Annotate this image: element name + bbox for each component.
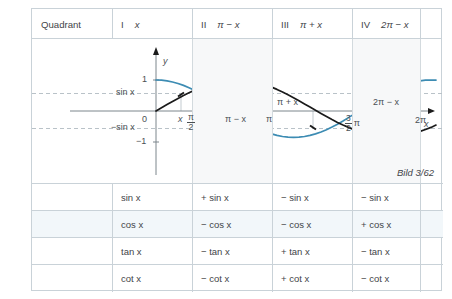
row-cos-divider-4 (352, 211, 353, 238)
row-sin-quadrant-4: − sin x (361, 184, 389, 211)
quadrant-3-roman: III (281, 19, 289, 30)
header-quadrant-3: III π + x (281, 9, 322, 39)
row-tan-quadrant-2: − tan x (201, 238, 230, 265)
row-sin-divider-5 (420, 184, 421, 211)
row-cot-quadrant-3: + cot x (281, 265, 309, 292)
grid-vline-pi (272, 39, 273, 183)
row-tan-divider-1 (112, 238, 113, 265)
table-row-cos: cos x − cos x − cos x + cos x (32, 211, 443, 238)
quadrant-2-expr: π − x (217, 19, 239, 30)
x-label-pi-half: π 2 (187, 113, 195, 132)
row-cos-divider-3 (272, 211, 273, 238)
row-tan-divider-4 (352, 238, 353, 265)
header-quadrant-4: IV 2π − x (361, 9, 409, 39)
row-cot-function: cot x (121, 265, 141, 292)
y-label-zero: 0 (142, 114, 147, 124)
three-pi-half-pi: π (354, 118, 360, 128)
figure-caption: Bild 3/62 (397, 167, 434, 178)
three-halves-denominator: 2 (345, 124, 352, 133)
row-cot-divider-4 (352, 265, 353, 292)
row-sin-divider-3 (272, 184, 273, 211)
three-pi-half-group: 3 2 π (345, 114, 360, 133)
y-label-sinx: sin x (116, 87, 135, 97)
row-tan-divider-3 (272, 238, 273, 265)
header-divider-2 (192, 9, 193, 39)
row-tan-quadrant-4: − tan x (361, 238, 390, 265)
x-label-x: x (178, 114, 183, 124)
table-header-row: Quadrant I x II π − x III π + x IV 2π − … (32, 9, 441, 39)
row-cot-divider-5 (420, 265, 421, 292)
row-cos-divider-2 (192, 211, 193, 238)
header-quadrant-2: II π − x (201, 9, 240, 39)
x-label-pi: π (266, 114, 272, 124)
x-label-pi-minus-x: π − x (225, 114, 246, 124)
row-cos-function: cos x (121, 211, 143, 238)
quadrant-1-roman: I (121, 19, 124, 30)
grid-vline-three-pi-half (352, 39, 353, 183)
row-cos-divider-1 (112, 211, 113, 238)
quadrant-1-expr: x (135, 19, 140, 30)
row-sin-divider-2 (192, 184, 193, 211)
pi-half-fraction: π 2 (187, 113, 195, 132)
x-axis-arrow (428, 108, 435, 114)
grid-vline-two-pi (420, 39, 421, 183)
row-sin-quadrant-3: − sin x (281, 184, 309, 211)
row-cot-quadrant-2: − cot x (201, 265, 229, 292)
quadrant-2-roman: II (201, 19, 206, 30)
quadrant-3-expr: π + x (300, 19, 322, 30)
y-label-neg-sinx: −sin x (111, 122, 135, 132)
y-label-one: 1 (142, 74, 147, 84)
row-cot-quadrant-4: − cot x (361, 265, 389, 292)
y-axis-name: y (163, 56, 168, 66)
row-tan-function: tan x (121, 238, 142, 265)
row-cot-divider-2 (192, 265, 193, 292)
header-quadrant-text: Quadrant (41, 19, 81, 30)
row-sin-function: sin x (121, 184, 141, 211)
quadrant-band-2 (192, 39, 272, 183)
pi-half-denominator: 2 (187, 123, 195, 132)
row-sin-quadrant-2: + sin x (201, 184, 229, 211)
header-quadrant-1: I x (121, 9, 139, 39)
row-cos-quadrant-4: + cos x (361, 211, 391, 238)
row-cos-quadrant-2: − cos x (201, 211, 231, 238)
trig-graph-figure: y x 1 sin x 0 −sin x −1 x π 2 π − x π π … (32, 39, 443, 184)
row-cos-quadrant-3: − cos x (281, 211, 311, 238)
table-row-cot: cot x − cot x + cot x − cot x (32, 265, 443, 292)
header-divider-4 (352, 9, 353, 39)
row-sin-divider-4 (352, 184, 353, 211)
x-label-three-pi-half: 3 2 π (345, 113, 360, 133)
row-cot-divider-3 (272, 265, 273, 292)
header-divider-5 (420, 9, 421, 39)
y-label-minus-one: −1 (136, 136, 146, 146)
header-divider-1 (112, 9, 113, 39)
y-axis-arrow (153, 47, 159, 55)
header-divider-3 (272, 9, 273, 39)
header-quadrant-label: Quadrant (41, 9, 81, 39)
x-label-two-pi: 2π (415, 115, 426, 125)
row-cos-divider-5 (420, 211, 421, 238)
table-row-tan: tan x − tan x + tan x − tan x (32, 238, 443, 265)
table-row-sin: sin x + sin x − sin x − sin x (32, 184, 443, 211)
three-halves-fraction: 3 2 (345, 114, 352, 133)
x-label-pi-plus-x: π + x (277, 97, 298, 107)
quadrant-4-roman: IV (361, 19, 370, 30)
grid-vline-pi-half (192, 39, 193, 183)
row-tan-divider-5 (420, 238, 421, 265)
row-tan-divider-2 (192, 238, 193, 265)
row-sin-divider-1 (112, 184, 113, 211)
quadrant-band-4 (352, 39, 420, 183)
row-tan-quadrant-3: + tan x (281, 238, 310, 265)
row-cot-divider-1 (112, 265, 113, 292)
quadrant-4-expr: 2π − x (381, 19, 409, 30)
quadrant-sign-table: Quadrant I x II π − x III π + x IV 2π − … (31, 8, 442, 291)
x-label-two-pi-minus-x: 2π − x (373, 97, 399, 107)
